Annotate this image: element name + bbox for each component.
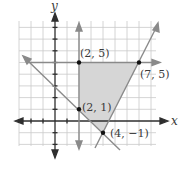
point-2-5 xyxy=(77,60,81,64)
point-7-5 xyxy=(137,60,141,64)
label-2-1: (2, 1) xyxy=(82,101,112,114)
point-2-1 xyxy=(77,107,81,111)
label-2-5: (2, 5) xyxy=(80,47,110,60)
y-axis-label: y xyxy=(50,0,58,13)
label-7-5: (7, 5) xyxy=(140,68,170,81)
point-4-neg1 xyxy=(101,131,105,135)
x-axis-label: x xyxy=(171,114,178,128)
coordinate-plane: (2, 5) (7, 5) (2, 1) (4, −1) x y xyxy=(0,0,189,171)
label-4-neg1: (4, −1) xyxy=(110,127,149,140)
